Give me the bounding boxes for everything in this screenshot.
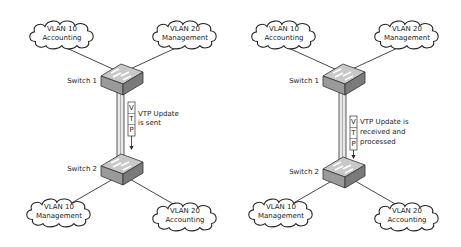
svg-text:received and: received and <box>360 128 405 136</box>
svg-text:VLAN 20: VLAN 20 <box>392 207 422 215</box>
svg-text:T: T <box>350 129 356 137</box>
svg-text:Accounting: Accounting <box>264 34 303 42</box>
cloud-vlan10-accounting-top: VLAN 10 Accounting <box>30 21 93 49</box>
link-s1-vlan20 <box>128 46 180 70</box>
vtp-diagram-canvas: VLAN 10 Accounting VLAN 20 Management Sw… <box>0 0 461 247</box>
svg-text:VLAN 10: VLAN 10 <box>266 203 296 211</box>
svg-text:T: T <box>128 115 134 123</box>
switch-icon <box>101 154 143 185</box>
diagram-vtp-sent: VLAN 10 Accounting VLAN 20 Management Sw… <box>27 21 216 231</box>
svg-text:Switch 2: Switch 2 <box>289 168 319 176</box>
svg-text:VTP Update is: VTP Update is <box>360 118 409 126</box>
svg-text:P: P <box>351 140 355 148</box>
cloud-vlan20-accounting-bottom: VLAN 20 Accounting <box>375 203 438 231</box>
switch-1: Switch 1 <box>289 64 365 95</box>
svg-text:V: V <box>351 118 356 126</box>
svg-text:VLAN 10: VLAN 10 <box>44 203 74 211</box>
svg-text:Management: Management <box>384 34 430 42</box>
cloud-vlan20-accounting-bottom: VLAN 20 Accounting <box>153 203 216 231</box>
vtp-packet: V T P VTP Update is sent <box>128 102 179 150</box>
svg-text:Switch 1: Switch 1 <box>289 77 319 85</box>
vtp-packet: V T P VTP Update is received and process… <box>350 116 409 159</box>
cloud-vlan10-management-bottom: VLAN 10 Management <box>249 199 312 227</box>
svg-text:VLAN 20: VLAN 20 <box>392 25 422 33</box>
diagram-vtp-received: VLAN 10 Accounting VLAN 20 Management Sw… <box>249 21 438 231</box>
switch-1: Switch 1 <box>67 64 143 95</box>
svg-text:Switch 2: Switch 2 <box>67 165 97 173</box>
svg-text:VLAN 20: VLAN 20 <box>170 207 200 215</box>
link-s2-vlan10 <box>68 178 115 205</box>
svg-text:Accounting: Accounting <box>387 216 426 224</box>
cloud-vlan20-management-top: VLAN 20 Management <box>153 21 216 49</box>
svg-text:VTP Update: VTP Update <box>138 110 179 118</box>
svg-text:processed: processed <box>360 138 396 146</box>
svg-text:Switch 1: Switch 1 <box>67 77 97 85</box>
svg-text:VLAN 10: VLAN 10 <box>269 25 299 33</box>
svg-text:V: V <box>129 104 134 112</box>
cloud-vlan10-accounting-top: VLAN 10 Accounting <box>252 21 315 49</box>
switch-icon <box>101 64 143 95</box>
switch-icon <box>323 64 365 95</box>
svg-text:Accounting: Accounting <box>165 216 204 224</box>
svg-text:Accounting: Accounting <box>42 34 81 42</box>
link-s2-vlan20 <box>128 178 175 205</box>
svg-text:Management: Management <box>36 212 82 220</box>
cloud-vlan20-management-top: VLAN 20 Management <box>375 21 438 49</box>
svg-text:P: P <box>129 126 133 134</box>
cloud-vlan10-management-bottom: VLAN 10 Management <box>27 199 90 227</box>
svg-text:VLAN 20: VLAN 20 <box>170 25 200 33</box>
svg-text:Management: Management <box>162 34 208 42</box>
svg-text:VLAN 10: VLAN 10 <box>47 25 77 33</box>
link-s1-vlan10 <box>62 46 115 70</box>
svg-text:is sent: is sent <box>138 119 161 127</box>
svg-text:Management: Management <box>258 212 304 220</box>
